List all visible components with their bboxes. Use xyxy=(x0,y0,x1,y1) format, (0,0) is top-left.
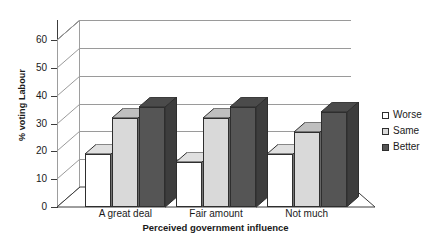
bar xyxy=(85,20,111,207)
x-axis-category-labels: A great dealFair amountNot much xyxy=(57,208,374,222)
bar-front-face xyxy=(294,132,320,207)
gridline-depth-connector xyxy=(57,76,81,98)
y-axis-tick-label: 50 xyxy=(0,63,47,73)
gridline-depth-connector xyxy=(57,104,81,126)
bar-chart: % voting Labour 0102030405060 A great de… xyxy=(0,0,435,238)
y-axis-tick-label: 10 xyxy=(0,174,47,184)
bar-front-face xyxy=(176,162,202,207)
gridline-depth-connector xyxy=(57,48,81,70)
bar xyxy=(267,20,293,207)
legend-item: Better xyxy=(382,139,435,155)
x-axis-category-label: Fair amount xyxy=(166,208,266,220)
bar xyxy=(294,20,320,207)
y-axis-tick-label: 20 xyxy=(0,146,47,156)
bar-front-face xyxy=(139,107,165,207)
x-axis-title: Perceived government influence xyxy=(57,222,374,233)
y-axis-tick-label: 60 xyxy=(0,35,47,45)
legend-item-label: Better xyxy=(393,142,420,152)
gridline-depth-connector xyxy=(57,131,81,153)
y-axis-tick-label: 30 xyxy=(0,119,47,129)
bar xyxy=(112,20,138,207)
x-axis-category-label: Not much xyxy=(257,208,357,220)
y-axis-tick-label: 0 xyxy=(0,202,47,212)
bar-front-face xyxy=(203,118,229,207)
x-axis-category-label: A great deal xyxy=(75,208,175,220)
legend-item-label: Worse xyxy=(393,110,422,120)
gridline-depth-connector xyxy=(57,159,81,181)
legend-item-label: Same xyxy=(393,126,419,136)
plot-area xyxy=(57,20,374,207)
bar xyxy=(176,20,202,207)
bar-front-face xyxy=(321,112,347,207)
y-axis-tick-label: 40 xyxy=(0,91,47,101)
legend-item: Same xyxy=(382,123,435,139)
legend-swatch-worse xyxy=(382,112,389,119)
legend-swatch-same xyxy=(382,128,389,135)
gridline-depth-connector xyxy=(57,20,81,42)
bar-front-face xyxy=(85,154,111,207)
bar xyxy=(321,20,347,207)
bar xyxy=(203,20,229,207)
bar xyxy=(230,20,256,207)
legend-item: Worse xyxy=(382,107,435,123)
bar-front-face xyxy=(112,118,138,207)
bar-front-face xyxy=(267,154,293,207)
legend: WorseSameBetter xyxy=(382,107,435,155)
bar-side-face xyxy=(347,102,360,209)
y-axis-title: % voting Labour xyxy=(17,25,27,185)
bar xyxy=(139,20,165,207)
bar-front-face xyxy=(230,107,256,207)
legend-swatch-better xyxy=(382,144,389,151)
